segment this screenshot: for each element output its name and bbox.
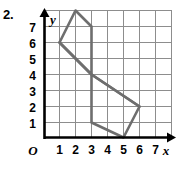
y-axis	[40, 8, 50, 139]
y-tick-2: 2	[29, 101, 36, 115]
grid-vertical-lines	[45, 10, 172, 137]
x-tick-7: 7	[152, 143, 159, 157]
x-tick-6: 6	[136, 143, 143, 157]
x-tick-1: 1	[56, 143, 63, 157]
worksheet-figure: 2.	[0, 0, 178, 170]
x-tick-4: 4	[104, 143, 111, 157]
x-tick-2: 2	[72, 143, 79, 157]
x-tick-5: 5	[120, 143, 127, 157]
y-tick-5: 5	[29, 53, 36, 67]
coordinate-plane: 7 6 5 4 3 2 1 1 2 3 4 5 6 7 y x O	[0, 0, 178, 170]
y-tick-6: 6	[29, 37, 36, 51]
origin-label: O	[28, 143, 38, 158]
y-axis-label: y	[48, 12, 56, 27]
y-tick-3: 3	[29, 85, 36, 99]
x-axis	[44, 133, 176, 143]
y-tick-4: 4	[29, 69, 36, 83]
x-axis-tick-labels: 1 2 3 4 5 6 7	[56, 143, 159, 157]
y-axis-tick-labels: 7 6 5 4 3 2 1	[29, 21, 36, 131]
y-tick-1: 1	[29, 117, 36, 131]
x-tick-3: 3	[88, 143, 95, 157]
x-axis-label: x	[162, 143, 170, 158]
y-tick-7: 7	[29, 21, 36, 35]
